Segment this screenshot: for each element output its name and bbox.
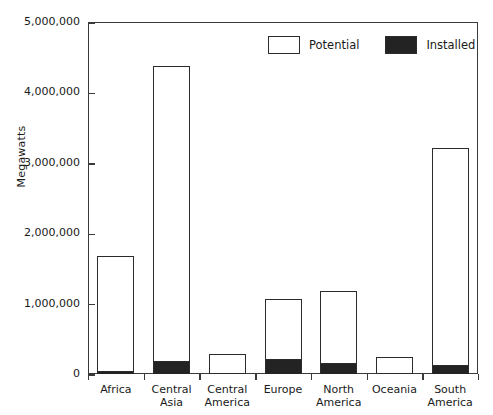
- potential-swatch: [268, 36, 300, 54]
- x-tick-label: Central America: [199, 383, 255, 409]
- y-tick-label: 4,000,000: [24, 85, 80, 98]
- bar-group[interactable]: [432, 22, 469, 374]
- x-tick-label: Oceania: [367, 383, 423, 396]
- x-tick-label: Africa: [88, 383, 144, 396]
- legend-label: Installed: [426, 38, 475, 52]
- bar-group[interactable]: [153, 22, 190, 374]
- bar-potential[interactable]: [320, 291, 357, 374]
- legend-item[interactable]: Installed: [385, 36, 475, 54]
- bar-group[interactable]: [97, 22, 134, 374]
- x-tick-mark: [311, 374, 312, 380]
- bar-installed[interactable]: [320, 363, 357, 374]
- x-tick-mark: [255, 374, 256, 380]
- bar-installed[interactable]: [432, 365, 469, 374]
- y-tick-label: 3,000,000: [24, 156, 80, 169]
- legend-item[interactable]: Potential: [268, 36, 359, 54]
- bar-potential[interactable]: [153, 66, 190, 374]
- chart-container: Megawatts 01,000,0002,000,0003,000,0004,…: [0, 0, 493, 415]
- y-tick-label: 1,000,000: [24, 297, 80, 310]
- bar-installed[interactable]: [265, 359, 302, 374]
- legend-label: Potential: [309, 38, 359, 52]
- x-tick-label: North America: [311, 383, 367, 409]
- x-tick-label: Central Asia: [144, 383, 200, 409]
- x-tick-mark: [199, 374, 200, 380]
- x-tick-label: South America: [422, 383, 478, 409]
- x-tick-label: Europe: [255, 383, 311, 396]
- bar-potential[interactable]: [209, 354, 246, 374]
- bar-potential[interactable]: [97, 256, 134, 374]
- chart-legend: PotentialInstalled: [268, 36, 475, 54]
- installed-swatch: [385, 36, 417, 54]
- y-tick-label: 0: [73, 367, 80, 380]
- bar-potential[interactable]: [376, 357, 413, 374]
- x-tick-mark: [88, 374, 89, 380]
- x-tick-mark: [422, 374, 423, 380]
- bar-potential[interactable]: [432, 148, 469, 374]
- y-tick-label: 5,000,000: [24, 15, 80, 28]
- bar-group[interactable]: [320, 22, 357, 374]
- bar-group[interactable]: [209, 22, 246, 374]
- x-tick-mark: [367, 374, 368, 380]
- x-tick-mark: [478, 374, 479, 380]
- x-axis-ticks: AfricaCentral AsiaCentral AmericaEuropeN…: [88, 374, 478, 414]
- bars-layer: [88, 22, 478, 374]
- bar-group[interactable]: [376, 22, 413, 374]
- y-tick-label: 2,000,000: [24, 226, 80, 239]
- x-tick-mark: [144, 374, 145, 380]
- bar-installed[interactable]: [153, 361, 190, 374]
- bar-group[interactable]: [265, 22, 302, 374]
